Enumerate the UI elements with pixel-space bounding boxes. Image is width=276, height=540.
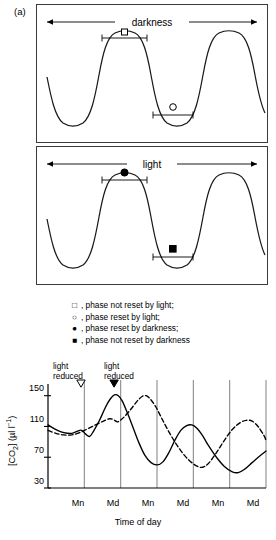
light-label: light	[143, 159, 162, 170]
open-circle-marker	[170, 104, 177, 111]
figure-root: (a)	[0, 0, 276, 540]
plot-svg	[0, 362, 276, 512]
legend-item-3: ■, phase not reset by darkness	[72, 335, 272, 347]
legend-item-1: ○, phase reset by light;	[72, 312, 272, 324]
darkness-waveform-svg: darkness	[37, 5, 267, 142]
legend-item-0: □, phase not reset by light;	[72, 300, 272, 312]
filled-circle-marker	[121, 169, 128, 176]
light-curve	[47, 173, 265, 268]
event-marker-filled-triangle	[110, 380, 118, 387]
legend-item-3-text: , phase not reset by darkness	[81, 335, 190, 345]
darkness-label: darkness	[132, 17, 173, 28]
filled-circle-icon: ●	[72, 323, 81, 335]
legend-item-2: ●, phase reset by darkness;	[72, 323, 272, 335]
legend-item-1-text: , phase reset by light;	[81, 312, 160, 322]
open-circle-icon: ○	[72, 312, 81, 324]
panel-a-darkness-box: darkness	[36, 4, 268, 143]
open-square-icon: □	[72, 300, 81, 312]
panel-a-light-box: light	[36, 146, 268, 285]
filled-square-icon: ■	[72, 335, 81, 347]
panel-b-chart: light reduced light reduced (b) 150 110 …	[0, 362, 276, 540]
filled-square-marker	[170, 246, 177, 253]
light-waveform-svg: light	[37, 147, 267, 284]
legend: □, phase not reset by light; ○, phase re…	[72, 300, 272, 346]
legend-item-2-text: , phase reset by darkness;	[81, 323, 178, 333]
open-square-marker	[122, 29, 128, 35]
legend-item-0-text: , phase not reset by light;	[81, 300, 174, 310]
darkness-curve	[47, 31, 265, 126]
panel-a-label: (a)	[14, 6, 26, 17]
x-axis-label: Time of day	[0, 517, 276, 527]
